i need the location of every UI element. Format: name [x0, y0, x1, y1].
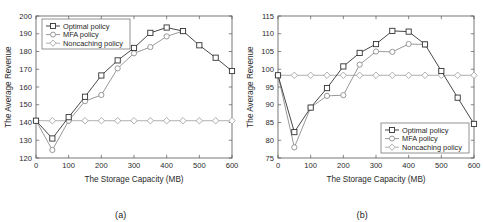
- svg-text:140: 140: [19, 118, 32, 127]
- svg-text:115: 115: [261, 12, 273, 21]
- svg-text:Noncaching policy: Noncaching policy: [402, 143, 462, 152]
- svg-text:160: 160: [19, 83, 32, 92]
- svg-text:300: 300: [128, 161, 141, 170]
- svg-text:The Average Revenue: The Average Revenue: [246, 46, 255, 128]
- svg-text:200: 200: [19, 12, 32, 21]
- svg-text:600: 600: [467, 161, 480, 170]
- svg-text:85: 85: [265, 118, 273, 127]
- svg-text:130: 130: [19, 136, 32, 145]
- svg-text:95: 95: [265, 83, 273, 92]
- chart-b-plot: 0100200300400500600758085909510010511011…: [242, 0, 483, 200]
- svg-text:500: 500: [193, 161, 206, 170]
- chart-panel-a: 0100200300400500600120130140150160170180…: [0, 0, 242, 222]
- svg-text:180: 180: [19, 47, 32, 56]
- svg-text:300: 300: [369, 161, 382, 170]
- svg-text:Noncaching policy: Noncaching policy: [63, 39, 123, 48]
- svg-text:100: 100: [261, 65, 274, 74]
- chart-b-svg: 0100200300400500600758085909510010511011…: [242, 0, 483, 200]
- chart-a-plot: 0100200300400500600120130140150160170180…: [0, 0, 242, 200]
- svg-text:105: 105: [261, 47, 274, 56]
- svg-text:600: 600: [226, 161, 239, 170]
- svg-text:500: 500: [434, 161, 447, 170]
- svg-text:The Average Revenue: The Average Revenue: [4, 46, 13, 128]
- svg-text:0: 0: [275, 161, 279, 170]
- svg-text:200: 200: [336, 161, 349, 170]
- svg-text:100: 100: [62, 161, 75, 170]
- chart-a-svg: 0100200300400500600120130140150160170180…: [0, 0, 242, 200]
- svg-text:170: 170: [19, 65, 32, 74]
- panel-a-caption: (a): [0, 210, 242, 220]
- svg-text:400: 400: [160, 161, 173, 170]
- svg-text:0: 0: [34, 161, 38, 170]
- svg-text:80: 80: [265, 136, 273, 145]
- panel-b-caption: (b): [242, 210, 483, 220]
- svg-text:The Storage Capacity (MB): The Storage Capacity (MB): [84, 175, 183, 184]
- chart-panel-b: 0100200300400500600758085909510010511011…: [242, 0, 483, 222]
- svg-text:150: 150: [19, 100, 32, 109]
- svg-text:90: 90: [265, 100, 273, 109]
- svg-text:110: 110: [261, 29, 273, 38]
- svg-text:75: 75: [265, 154, 273, 163]
- svg-text:200: 200: [95, 161, 108, 170]
- svg-text:The Storage Capacity (MB): The Storage Capacity (MB): [326, 175, 425, 184]
- svg-text:400: 400: [402, 161, 415, 170]
- svg-text:120: 120: [19, 154, 32, 163]
- figure-container: 0100200300400500600120130140150160170180…: [0, 0, 483, 222]
- svg-text:100: 100: [304, 161, 317, 170]
- svg-text:190: 190: [19, 29, 32, 38]
